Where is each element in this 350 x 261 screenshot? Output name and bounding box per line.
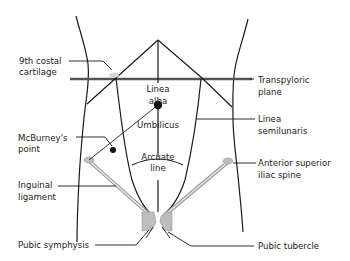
label-mcburney-2: point (18, 144, 41, 154)
costal-margin-right (158, 40, 232, 107)
left-body-outline (76, 16, 89, 242)
label-transpyloric-1: Transpyloric (257, 75, 310, 85)
label-inguinal-1: Inguinal (18, 180, 52, 190)
label-costal-cartilage-2: cartilage (19, 67, 57, 77)
label-costal-cartilage-1: 9th costal (19, 56, 62, 66)
label-mcburney-1: McBurney's (18, 133, 68, 143)
pubic-bone-left (142, 212, 156, 231)
inguinal-ligament-left-inner (89, 161, 150, 215)
label-inguinal-2: ligament (18, 192, 57, 202)
costal-margin-left (87, 40, 158, 104)
pubic-bone-right (160, 212, 172, 231)
label-umbilicus: Umbilicus (137, 120, 179, 130)
mcburney-point-dot (110, 147, 116, 153)
label-transpyloric-2: plane (258, 87, 282, 97)
leader-costal-cartilage (69, 61, 112, 70)
label-linea-semilunaris-1: Linea (258, 114, 281, 124)
label-pubic-symphysis: Pubic symphysis (18, 240, 90, 250)
label-asis-1: Anterior superior (258, 158, 331, 168)
label-pubic-tubercle: Pubic tubercle (258, 241, 319, 251)
leader-pubic-tubercle (168, 232, 254, 246)
right-body-outline (233, 19, 248, 232)
linea-semilunaris-right (164, 79, 201, 214)
costal-cartilage-marker (109, 73, 119, 78)
linea-semilunaris-left (116, 78, 151, 214)
label-asis-2: iliac spine (258, 170, 301, 180)
label-linea-alba-2: alba (149, 96, 167, 106)
label-linea-semilunaris-2: semilunaris (258, 126, 308, 136)
leader-pubic-symphysis (95, 230, 149, 245)
inguinal-ligament-right-inner (165, 162, 228, 215)
label-arcuate-2: line (150, 163, 166, 173)
abdominal-wall-diagram: 9th costal cartilage Transpyloric plane … (0, 0, 350, 261)
label-arcuate-1: Arcuate (141, 152, 174, 162)
asis-right (223, 158, 233, 164)
label-linea-alba-1: Linea (146, 84, 169, 94)
